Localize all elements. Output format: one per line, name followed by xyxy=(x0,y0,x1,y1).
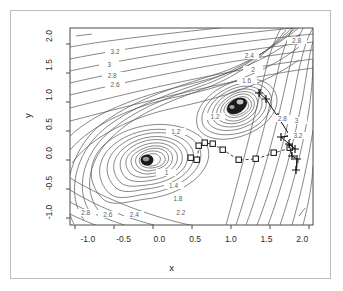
contour-level-label: 1.6 xyxy=(237,77,257,84)
contour-level-label: 1.4 xyxy=(164,182,184,189)
plus-path-line xyxy=(259,89,297,170)
x-tick-label: 0.5 xyxy=(180,234,210,244)
x-tick-label: 2.0 xyxy=(287,234,317,244)
contour-level-label: 2.8 xyxy=(287,37,307,44)
contour-level-label: 3.2 xyxy=(105,48,125,55)
square-path-series xyxy=(188,140,292,162)
contour-level-label: 3 xyxy=(287,117,307,124)
contour-level-label: 2.8 xyxy=(76,209,96,216)
contour-level-label: 2.6 xyxy=(98,211,118,218)
x-tick-label: 1.0 xyxy=(216,234,246,244)
x-tick-label: -1.0 xyxy=(73,234,103,244)
contour-level-label: 1.2 xyxy=(205,113,225,120)
contour-level-label: 2.8 xyxy=(102,72,122,79)
y-tick-label: 1.0 xyxy=(44,82,54,108)
x-tick-label: 0.0 xyxy=(144,234,174,244)
y-tick-label: 0.0 xyxy=(44,140,54,166)
y-tick-label: 1.5 xyxy=(44,52,54,78)
y-tick-label: 2.0 xyxy=(44,23,54,49)
x-tick-label: 1.5 xyxy=(252,234,282,244)
contour-level-label: 1 xyxy=(156,169,176,176)
contour-level-label: 3 xyxy=(99,61,119,68)
y-axis-ticks xyxy=(66,44,70,218)
x-axis-ticks xyxy=(75,225,309,229)
contour-level-label: 2.4 xyxy=(124,211,144,218)
y-tick-label: 0.5 xyxy=(44,111,54,137)
contour-level-label: 2.6 xyxy=(105,81,125,88)
y-tick-label: -1.0 xyxy=(44,199,54,225)
square-markers xyxy=(188,140,292,162)
x-tick-label: -0.5 xyxy=(109,234,139,244)
contour-level-label: 1.8 xyxy=(168,195,188,202)
contour-level-label: 2.2 xyxy=(171,209,191,216)
x-axis-title: x xyxy=(0,262,343,273)
contour-level-label: 3.2 xyxy=(288,132,308,139)
contour-level-label: 2.4 xyxy=(239,52,259,59)
contour-level-label: 2 xyxy=(243,66,263,73)
y-tick-label: -0.5 xyxy=(44,170,54,196)
contour-level-label: 1.2 xyxy=(166,128,186,135)
plot-frame xyxy=(70,28,313,225)
y-axis-title: y xyxy=(22,113,33,118)
figure-container: 3.232.82.62.421.62.82.833.21.211.41.82.2… xyxy=(0,0,343,291)
